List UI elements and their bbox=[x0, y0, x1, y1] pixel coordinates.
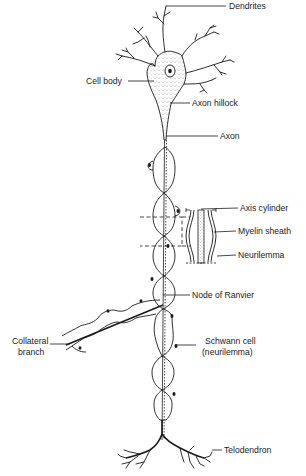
collateral-branch bbox=[62, 299, 163, 352]
nucleolus bbox=[168, 69, 172, 74]
label-node-of-ranvier: Node of Ranvier bbox=[192, 290, 254, 300]
label-axis-cylinder: Axis cylinder bbox=[240, 203, 288, 213]
label-myelin-sheath: Myelin sheath bbox=[238, 226, 291, 236]
telodendron bbox=[118, 420, 212, 468]
label-neurilemma: Neurilemma bbox=[238, 250, 285, 260]
cell-body bbox=[147, 51, 186, 140]
label-schwann-cell-1: Schwann cell bbox=[205, 336, 256, 346]
label-telodendron: Telodendron bbox=[224, 445, 272, 455]
label-axon: Axon bbox=[220, 131, 240, 141]
label-dendrites: Dendrites bbox=[229, 1, 266, 11]
label-axon-hillock: Axon hillock bbox=[192, 98, 239, 108]
axon bbox=[162, 140, 167, 440]
leader-lines bbox=[50, 6, 238, 450]
label-collateral-branch-2: branch bbox=[18, 347, 44, 357]
label-collateral-branch-1: Collateral bbox=[12, 336, 48, 346]
label-schwann-cell-2: (neurilemma) bbox=[202, 347, 253, 357]
neuron-diagram: Dendrites Cell body Axon hillock Axon Ax… bbox=[0, 0, 306, 476]
node-inset bbox=[140, 208, 216, 263]
label-cell-body: Cell body bbox=[86, 76, 123, 86]
